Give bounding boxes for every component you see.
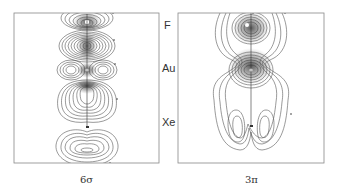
contour-figure: F Au Xe 6σ 3π	[0, 0, 337, 188]
atom-label-au: Au	[162, 63, 175, 74]
atom-label-xe: Xe	[162, 117, 175, 128]
panel-3pi	[213, 12, 291, 150]
atom-label-f: F	[164, 20, 171, 31]
caption-6sigma: 6σ	[80, 175, 93, 185]
caption-3pi: 3π	[245, 175, 258, 185]
panel-6sigma	[56, 6, 118, 166]
